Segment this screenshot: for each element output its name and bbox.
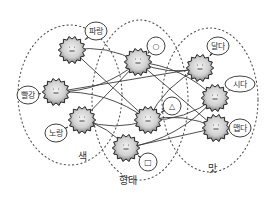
face-eye-icon [79,117,80,118]
node-square[interactable] [112,135,140,162]
face-eye-icon [69,47,70,48]
edge-red-circle [56,62,138,92]
label-bubble-sweet: 달다 [207,37,229,56]
face-eye-icon [84,117,85,118]
node-label-sweet: 달다 [211,42,226,51]
label-bubble-sour: 시다 [225,76,255,92]
node-label-yellow: 노랑 [49,128,64,138]
node-label-blue: 파랑 [89,26,104,36]
label-bubble-red: 빨강 [17,86,41,104]
label-bubble-triangle: △ [161,97,181,115]
face-eye-icon [53,89,54,90]
neuron-icon [201,85,229,112]
label-bubble-spicy: 맵다 [229,119,251,137]
node-label-triangle: △ [169,102,176,111]
label-bubble-yellow: 노랑 [45,124,68,142]
node-sweet[interactable] [186,55,214,82]
face-eye-icon [217,95,218,96]
face-eye-icon [150,117,151,118]
node-spicy[interactable] [202,115,230,142]
node-label-circle: ○ [153,42,160,51]
face-eye-icon [74,47,75,48]
face-eye-icon [218,125,219,126]
label-bubble-blue: 파랑 [85,22,107,40]
node-label-spicy: 맵다 [233,123,248,133]
label-bubble-circle: ○ [147,37,165,55]
node-label-sour: 시다 [233,80,248,89]
group-label-taste: 맛 [208,163,217,174]
nodes: 파랑빨강노랑○△□달다시다맵다 [17,22,255,171]
face-eye-icon [197,65,198,66]
face-eye-icon [212,95,213,96]
face-eye-icon [123,145,124,146]
edge-red-triangle [56,92,148,120]
node-sour[interactable] [201,85,229,112]
face-eye-icon [145,117,146,118]
face-eye-icon [128,145,129,146]
group-label-color: 색 [78,151,87,162]
group-label-shape: 형태 [119,175,137,186]
face-eye-icon [140,59,141,60]
label-bubble-square: □ [138,153,157,171]
neuron-icon [112,135,140,162]
neuron-icon [202,115,230,142]
network-diagram: 파랑빨강노랑○△□달다시다맵다 색형태맛 [0,0,279,200]
face-eye-icon [135,59,136,60]
node-label-red: 빨강 [21,90,36,100]
edge-red-sweet [56,68,200,92]
node-label-square: □ [144,158,152,167]
face-eye-icon [202,65,203,66]
face-eye-icon [213,125,214,126]
neuron-icon [186,55,214,82]
node-red[interactable] [42,79,70,106]
face-eye-icon [58,89,59,90]
neuron-icon [42,79,70,106]
